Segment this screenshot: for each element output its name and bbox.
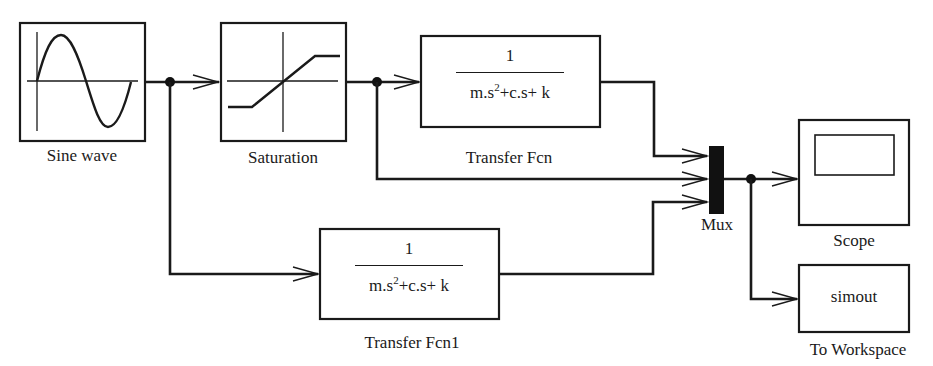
scope-icon: [815, 135, 894, 175]
to-workspace-label: To Workspace: [810, 340, 907, 360]
saturation-label: Saturation: [248, 148, 318, 168]
scope-label: Scope: [833, 231, 875, 251]
to-workspace-variable: simout: [831, 287, 877, 307]
transfer-fcn-numerator: 1: [456, 46, 564, 66]
denominator-part: m.s: [470, 83, 494, 102]
denominator-part: m.s: [369, 276, 393, 295]
transfer-fcn-label: Transfer Fcn: [466, 148, 553, 168]
transfer-fcn1-denominator: m.s2+c.s+ k: [355, 270, 463, 296]
mux-label: Mux: [701, 215, 733, 235]
transfer-fcn1-label: Transfer Fcn1: [364, 333, 459, 353]
transfer-fcn-denominator: m.s2+c.s+ k: [456, 77, 564, 103]
mux-block[interactable]: [709, 146, 724, 214]
transfer-fcn1-numerator: 1: [355, 239, 463, 259]
transfer-fcn1-expression: 1 m.s2+c.s+ k: [355, 239, 463, 296]
denominator-part: +c.s+ k: [500, 83, 550, 102]
transfer-fcn-expression: 1 m.s2+c.s+ k: [456, 46, 564, 103]
scope-block[interactable]: [799, 120, 909, 225]
saturation-block[interactable]: [221, 23, 346, 141]
sine-wave-label: Sine wave: [47, 146, 117, 166]
fraction-bar: [456, 72, 564, 73]
denominator-part: +c.s+ k: [399, 276, 449, 295]
sine-wave-block[interactable]: [20, 23, 145, 141]
fraction-bar: [355, 265, 463, 266]
